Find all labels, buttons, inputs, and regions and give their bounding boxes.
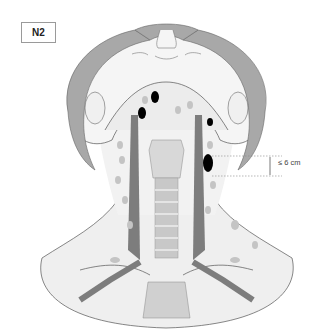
involved-node-left-upper — [138, 107, 146, 119]
neck-anatomy-illustration — [0, 0, 333, 336]
measurement-label: ≤ 6 cm — [278, 158, 300, 167]
stage-label: N2 — [21, 22, 56, 43]
larynx — [149, 140, 184, 178]
sternum — [143, 282, 190, 318]
right-ear — [228, 92, 248, 124]
involved-node-left-submandibular — [151, 91, 159, 103]
involved-node-right-mid — [203, 154, 213, 172]
nose — [157, 30, 177, 48]
involved-node-right-upper — [207, 118, 213, 126]
left-ear — [85, 92, 105, 124]
